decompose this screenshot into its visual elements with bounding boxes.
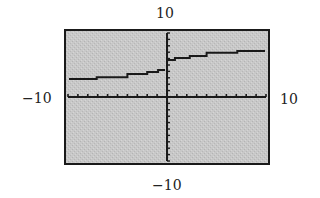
x-max-label: 10 (280, 92, 298, 106)
plot-area (64, 29, 270, 165)
x-min-label: −10 (22, 91, 52, 105)
y-min-label: −10 (152, 178, 182, 192)
calculator-graph-screen (64, 29, 270, 165)
y-max-label: 10 (156, 6, 174, 20)
